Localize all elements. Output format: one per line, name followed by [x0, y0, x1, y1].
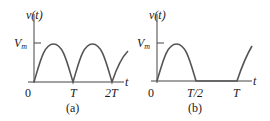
x-tick-2T: 2T — [105, 86, 119, 100]
x-tick-T: T — [70, 86, 78, 100]
panel-b: v(t) Vm t 0 T/2 T (b) — [137, 8, 257, 115]
figure: v(t) Vm t 0 T 2T (a) v(t) Vm t 0 T/2 T (… — [0, 0, 270, 121]
x-tick-T: T — [233, 86, 241, 100]
y-axis-label: v(t) — [26, 8, 43, 22]
amplitude-label: Vm — [137, 36, 150, 51]
y-axis-label: v(t) — [149, 8, 166, 22]
x-tick-0: 0 — [25, 86, 31, 100]
x-tick-0: 0 — [148, 86, 154, 100]
x-axis-label: t — [125, 75, 129, 89]
x-axis-label: t — [253, 74, 257, 88]
full-wave-curve — [34, 44, 128, 82]
half-wave-curve — [157, 44, 252, 81]
panel-a: v(t) Vm t 0 T 2T (a) — [14, 8, 129, 115]
x-tick-T-half: T/2 — [187, 86, 203, 100]
caption-b: (b) — [188, 101, 202, 115]
caption-a: (a) — [66, 101, 79, 115]
amplitude-label: Vm — [14, 36, 27, 51]
